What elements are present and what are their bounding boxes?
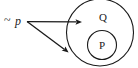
diagram-canvas: ~ p Q P [0, 0, 138, 68]
outer-set-circle-q [67, 0, 134, 66]
antecedent-label-p: p [14, 14, 21, 28]
outer-set-label-q: Q [99, 11, 107, 23]
inner-set-label-p: P [99, 39, 105, 51]
arrow-shaft-to-exterior-region [27, 22, 64, 50]
venn-diagram-figure: ~ p Q P [0, 0, 138, 68]
negation-symbol: ~ [4, 13, 11, 27]
